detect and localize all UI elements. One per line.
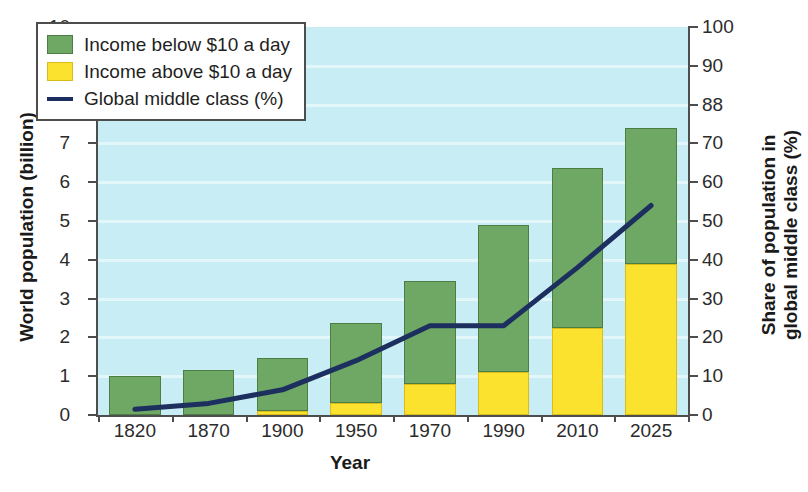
x-axis-tick-label-1870: 1870 (169, 421, 249, 440)
x-axis-tick-label-1900: 1900 (242, 421, 322, 440)
y-axis-right-tick (690, 336, 698, 338)
y-axis-right-tick-label: 40 (702, 250, 762, 269)
y-axis-right-tick (690, 104, 698, 106)
chart-figure: World population (billion) Share of popu… (0, 0, 808, 492)
y-axis-left-tick (88, 375, 96, 377)
legend-label-income-below: Income below $10 a day (84, 34, 290, 56)
y-axis-right-title: Share of population in global middle cla… (758, 70, 804, 400)
y-axis-right-tick (690, 375, 698, 377)
y-axis-right-tick-label: 50 (702, 211, 762, 230)
y-axis-right-tick (690, 414, 698, 416)
yellow-square-swatch (47, 62, 73, 81)
y-axis-left-tick (88, 220, 96, 222)
y-axis-right-tick-label: 60 (702, 172, 762, 191)
y-axis-right-tick (690, 26, 698, 28)
x-axis-tick-label-1990: 1990 (464, 421, 544, 440)
x-axis-title: Year (0, 452, 700, 474)
x-axis-tick-label-2010: 2010 (537, 421, 617, 440)
y-axis-left-tick (88, 336, 96, 338)
y-axis-right-tick-label: 30 (702, 289, 762, 308)
y-axis-right-tick (690, 220, 698, 222)
legend-item-global-middle-class: Global middle class (%) (47, 85, 292, 112)
legend-item-income-below: Income below $10 a day (47, 31, 292, 58)
y-axis-right-tick-label: 88 (702, 95, 762, 114)
green-square-swatch (47, 35, 73, 54)
legend-item-income-above: Income above $10 a day (47, 58, 292, 85)
y-axis-left-tick (88, 181, 96, 183)
y-axis-right-tick-label: 10 (702, 366, 762, 385)
chart-legend: Income below $10 a day Income above $10 … (36, 22, 306, 121)
y-axis-right-tick (690, 259, 698, 261)
x-axis-tick-label-1820: 1820 (95, 421, 175, 440)
x-axis-tick-label-2025: 2025 (611, 421, 691, 440)
legend-label-global-middle-class: Global middle class (%) (84, 88, 284, 110)
y-axis-left-tick-label: 6 (10, 172, 70, 191)
legend-label-income-above: Income above $10 a day (84, 61, 292, 83)
y-axis-left-tick-label: 1 (10, 366, 70, 385)
x-axis-tick-label-1950: 1950 (316, 421, 396, 440)
y-axis-right-tick-label: 0 (702, 405, 762, 424)
y-axis-right-tick (690, 298, 698, 300)
y-axis-left-tick-label: 7 (10, 133, 70, 152)
y-axis-right-tick (690, 142, 698, 144)
x-axis-tick-label-1970: 1970 (390, 421, 470, 440)
y-axis-left-tick-label: 4 (10, 250, 70, 269)
y-axis-left-tick-label: 0 (10, 405, 70, 424)
y-axis-right-tick-label: 90 (702, 56, 762, 75)
y-axis-right-tick-label: 100 (702, 17, 762, 36)
y-axis-left-tick (88, 142, 96, 144)
y-axis-left-tick (88, 298, 96, 300)
y-axis-left-tick-label: 3 (10, 289, 70, 308)
y-axis-left-tick-label: 5 (10, 211, 70, 230)
y-axis-left-tick (88, 414, 96, 416)
navy-line-swatch (47, 89, 73, 108)
y-axis-left-tick-label: 2 (10, 327, 70, 346)
y-axis-right-tick (690, 181, 698, 183)
y-axis-right-tick (690, 65, 698, 67)
y-axis-right-tick-label: 20 (702, 327, 762, 346)
y-axis-right-title-line2: global middle class (%) (780, 130, 801, 340)
y-axis-left-tick (88, 259, 96, 261)
y-axis-right-tick-label: 70 (702, 133, 762, 152)
